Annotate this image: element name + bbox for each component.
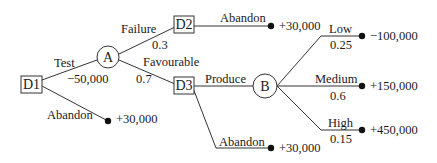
node-b-label: B: [260, 79, 269, 94]
terminal-dot-d1-abandon: [105, 118, 111, 124]
edge-d2-abandon-label: Abandon: [220, 11, 267, 25]
node-b: B: [253, 74, 277, 98]
payoff-d3-abandon: +30,000: [279, 141, 320, 155]
edge-d3-abandon-label: Abandon: [219, 135, 266, 149]
edge-low-prob: 0.25: [330, 38, 352, 52]
edge-medium-label: Medium: [315, 72, 358, 86]
edge-high-label: High: [328, 116, 354, 130]
terminal-dot-high: [359, 127, 365, 133]
node-d1: D1: [21, 76, 42, 93]
edge-test-label: Test: [54, 56, 75, 70]
edge-failure-label: Failure: [121, 22, 157, 36]
terminal-dot-d3-abandon: [268, 145, 274, 151]
node-a: A: [97, 46, 119, 68]
payoff-d2-abandon: +30,000: [279, 19, 320, 33]
payoff-low: −100,000: [370, 29, 418, 43]
node-d3-label: D3: [175, 78, 192, 93]
terminal-dot-d2-abandon: [268, 23, 274, 29]
edge-produce-label: Produce: [205, 72, 246, 86]
node-a-label: A: [103, 50, 114, 65]
decision-tree-diagram: D1 D2 D3 A B Test −50,000 Abandon +30,00…: [0, 0, 437, 163]
edge-medium-prob: 0.6: [330, 89, 346, 103]
edge-d1-abandon-label: Abandon: [47, 108, 94, 122]
edge-test-cost: −50,000: [67, 72, 108, 86]
edge-favourable-label: Favourable: [143, 55, 200, 69]
node-d2: D2: [174, 16, 194, 33]
terminal-dot-medium: [359, 83, 365, 89]
edge-low-label: Low: [329, 22, 352, 36]
node-d2-label: D2: [175, 17, 192, 32]
payoff-medium: +150,000: [370, 79, 418, 93]
edge-favourable-prob: 0.7: [136, 72, 152, 86]
node-d1-label: D1: [23, 77, 40, 92]
node-d3: D3: [174, 77, 194, 94]
payoff-high: +450,000: [370, 123, 418, 137]
edge-high-prob: 0.15: [330, 132, 352, 146]
terminal-dot-low: [359, 33, 365, 39]
edge-failure-prob: 0.3: [152, 38, 168, 52]
payoff-d1-abandon: +30,000: [116, 112, 157, 126]
